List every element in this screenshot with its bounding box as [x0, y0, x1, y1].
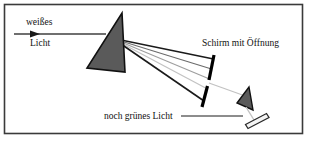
label-weisses: weißes — [26, 17, 53, 27]
diagram-canvas: weißes Licht Schirm mit Öffnung noch grü… — [0, 0, 311, 146]
label-noch-gruenes-licht: noch grünes Licht — [104, 111, 173, 121]
label-licht: Licht — [30, 38, 50, 48]
label-schirm-mit-oeffnung: Schirm mit Öffnung — [202, 37, 279, 48]
prism-dispersion-figure: weißes Licht Schirm mit Öffnung noch grü… — [0, 0, 311, 146]
